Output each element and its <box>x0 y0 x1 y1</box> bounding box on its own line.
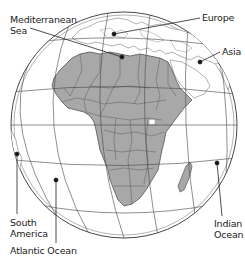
mediterranean-marker <box>120 55 124 59</box>
europe-marker <box>112 32 116 36</box>
label-europe: Europe <box>202 12 234 23</box>
atlantic-marker <box>54 178 58 182</box>
indian-ocean-marker <box>215 161 219 165</box>
label-south-america: South America <box>10 217 48 239</box>
label-atlantic-ocean: Atlantic Ocean <box>10 245 77 256</box>
label-mediterranean-sea: Mediterranean Sea <box>10 14 77 36</box>
asia-marker <box>198 60 202 64</box>
south-america-marker <box>15 152 19 156</box>
label-asia: Asia <box>222 46 241 57</box>
label-indian-ocean: Indian Ocean <box>214 218 243 240</box>
lake-victoria <box>149 119 156 125</box>
